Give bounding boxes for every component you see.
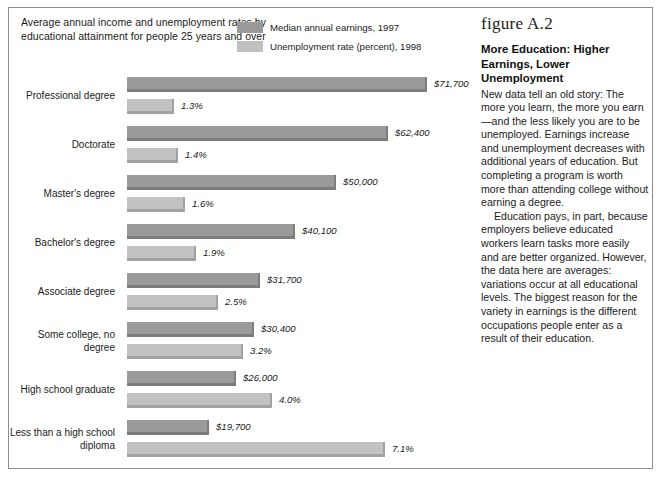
figure-number: figure A.2 <box>481 14 649 34</box>
unemployment-bar <box>127 344 243 359</box>
category-label: Doctorate <box>9 121 121 170</box>
earnings-value-label: $30,400 <box>261 323 296 334</box>
earnings-value-label: $19,700 <box>216 421 251 432</box>
figure-container: Average annual income and unemployment r… <box>0 0 663 488</box>
legend-item-unemployment: Unemployment rate (percent), 1998 <box>237 39 472 53</box>
bar-pair: $30,4003.2% <box>127 317 472 366</box>
unemployment-value-label: 2.5% <box>225 296 247 307</box>
unemployment-value-label: 1.9% <box>203 247 225 258</box>
caption-paragraph: Education pays, in part, because employe… <box>481 210 649 346</box>
chart-panel: Average annual income and unemployment r… <box>9 8 472 468</box>
legend-swatch-earnings-icon <box>237 22 263 33</box>
category-label: Bachelor's degree <box>9 219 121 268</box>
earnings-value-label: $50,000 <box>343 176 378 187</box>
earnings-bar <box>127 126 388 141</box>
legend-label-earnings: Median annual earnings, 1997 <box>270 22 399 33</box>
category-label: Associate degree <box>9 268 121 317</box>
unemployment-bar <box>127 148 178 163</box>
legend-swatch-unemployment-icon <box>237 41 263 52</box>
figure-caption-title: More Education: Higher Earnings, Lower U… <box>481 42 649 86</box>
unemployment-bar <box>127 99 174 114</box>
unemployment-value-label: 1.4% <box>185 149 207 160</box>
unemployment-bar <box>127 197 185 212</box>
legend-item-earnings: Median annual earnings, 1997 <box>237 20 472 34</box>
earnings-bar <box>127 371 236 386</box>
earnings-bar <box>127 322 254 337</box>
unemployment-bar <box>127 295 218 310</box>
unemployment-value-label: 1.6% <box>192 198 214 209</box>
bar-pair: $50,0001.6% <box>127 170 472 219</box>
unemployment-value-label: 3.2% <box>250 345 272 356</box>
bar-pair: $19,7007.1% <box>127 415 472 464</box>
legend-label-unemployment: Unemployment rate (percent), 1998 <box>270 41 421 52</box>
earnings-bar <box>127 77 427 92</box>
category-label: High school graduate <box>9 366 121 415</box>
bar-pair: $62,4001.4% <box>127 121 472 170</box>
unemployment-bar <box>127 442 385 457</box>
unemployment-value-label: 7.1% <box>392 443 414 454</box>
category-label: Less than a high school diploma <box>9 415 121 464</box>
category-label: Professional degree <box>9 72 121 121</box>
unemployment-bar <box>127 246 196 261</box>
bar-group: Professional degree$71,7001.3% <box>9 72 472 121</box>
earnings-value-label: $62,400 <box>395 127 430 138</box>
bar-group: Master's degree$50,0001.6% <box>9 170 472 219</box>
bar-pair: $71,7001.3% <box>127 72 472 121</box>
category-label: Some college, no degree <box>9 317 121 366</box>
earnings-value-label: $31,700 <box>267 274 302 285</box>
bar-group: Doctorate$62,4001.4% <box>9 121 472 170</box>
bar-chart-plot: Professional degree$71,7001.3%Doctorate$… <box>9 72 472 464</box>
chart-legend: Median annual earnings, 1997 Unemploymen… <box>237 20 472 58</box>
earnings-value-label: $71,700 <box>434 78 469 89</box>
earnings-value-label: $40,100 <box>302 225 337 236</box>
bar-group: Bachelor's degree$40,1001.9% <box>9 219 472 268</box>
earnings-bar <box>127 224 295 239</box>
earnings-bar <box>127 273 260 288</box>
chart-header: Average annual income and unemployment r… <box>21 16 271 43</box>
chart-title: Average annual income and unemployment r… <box>21 16 271 43</box>
bar-group: Some college, no degree$30,4003.2% <box>9 317 472 366</box>
bar-pair: $31,7002.5% <box>127 268 472 317</box>
bar-group: High school graduate$26,0004.0% <box>9 366 472 415</box>
unemployment-value-label: 4.0% <box>279 394 301 405</box>
bar-group: Associate degree$31,7002.5% <box>9 268 472 317</box>
figure-caption-body: New data tell an old story: The more you… <box>481 88 649 346</box>
unemployment-bar <box>127 393 272 408</box>
caption-paragraph: New data tell an old story: The more you… <box>481 88 649 210</box>
bar-pair: $40,1001.9% <box>127 219 472 268</box>
figure-sidebar: figure A.2 More Education: Higher Earnin… <box>481 14 649 346</box>
earnings-bar <box>127 175 336 190</box>
bar-pair: $26,0004.0% <box>127 366 472 415</box>
earnings-bar <box>127 420 209 435</box>
earnings-value-label: $26,000 <box>243 372 278 383</box>
unemployment-value-label: 1.3% <box>181 100 203 111</box>
category-label: Master's degree <box>9 170 121 219</box>
bar-group: Less than a high school diploma$19,7007.… <box>9 415 472 464</box>
